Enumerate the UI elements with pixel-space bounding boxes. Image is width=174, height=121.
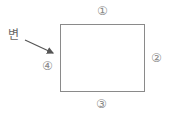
arrow-icon bbox=[0, 0, 174, 121]
